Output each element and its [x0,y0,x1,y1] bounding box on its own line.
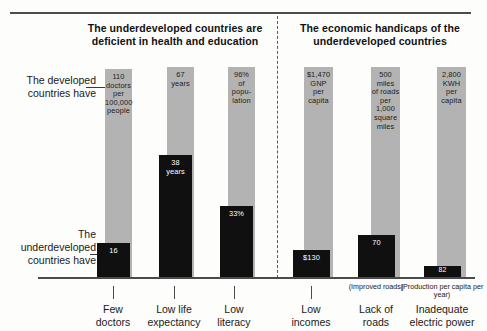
category-sublabel-electric-power: (Production per capita per year) [400,283,484,300]
bar-value-label-underdeveloped-life-expectancy: 38years [159,159,192,176]
axis-baseline [38,277,475,279]
bar-value-label-developed-life-expectancy: 67years [167,71,194,88]
bar-value-label-developed-incomes: $1,470GNPpercapita [304,71,333,105]
bar-underdeveloped-roads: 70 [358,235,395,277]
bar-value-label-underdeveloped-doctors: 16 [97,247,130,256]
axis-tick-life-expectancy [174,286,175,299]
bar-underdeveloped-doctors: 16 [97,243,130,277]
legend-label-developed: The developed countries have [4,74,96,100]
bar-value-label-developed-doctors: 110doctorsper100,000people [105,73,132,116]
top-rule-divider [10,12,471,14]
bar-value-label-underdeveloped-incomes: $130 [293,254,330,263]
axis-tick-literacy [234,286,235,299]
bar-developed-incomes: $1,470GNPpercapita [304,67,333,277]
panel-title-health-education: The underdeveloped countries are deficie… [75,22,275,48]
bar-value-label-underdeveloped-roads: 70 [358,239,395,248]
bar-underdeveloped-incomes: $130 [293,250,330,277]
bar-underdeveloped-life-expectancy: 38years [159,155,192,277]
bar-underdeveloped-literacy: 33% [220,206,253,277]
bar-developed-electric-power: 2,800KWHpercapita [437,67,466,277]
axis-tick-incomes [311,286,312,299]
panel-title-economic-handicaps: The economic handicaps of the underdevel… [285,22,475,48]
category-label-electric-power: Inadequateelectric power [397,303,487,329]
bar-value-label-underdeveloped-literacy: 33% [220,210,253,219]
bar-value-label-developed-electric-power: 2,800KWHpercapita [437,71,466,105]
bar-value-label-underdeveloped-electric-power: 82 [424,266,461,275]
bar-value-label-developed-roads: 500milesof roadsper1,000squaremiles [371,71,400,131]
bar-value-label-developed-literacy: 96%ofpopu-lation [228,71,255,105]
bar-underdeveloped-electric-power: 82 [424,266,461,277]
leader-line-developed [86,87,105,88]
legend-label-underdeveloped: The underdeveloped countries have [0,228,96,267]
panel-divider-dashed [277,16,278,278]
axis-tick-doctors [113,286,114,299]
